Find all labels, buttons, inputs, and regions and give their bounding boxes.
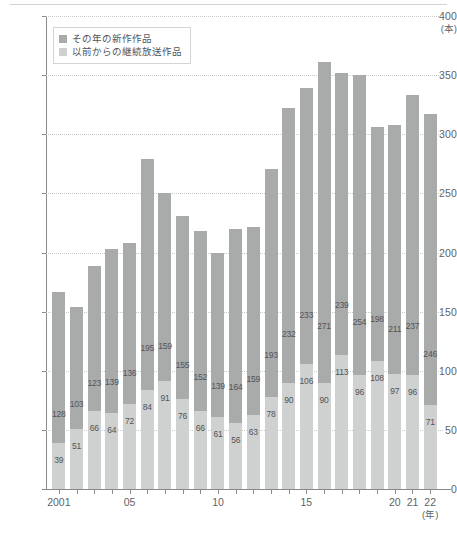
x-tickmark-2010 xyxy=(218,489,219,494)
bar-value-new-2019: 198 xyxy=(370,315,384,324)
bar-value-continuing-2010: 61 xyxy=(213,430,222,439)
bar-2016: 90271 xyxy=(318,62,331,489)
bar-segment-new-2017 xyxy=(335,73,348,356)
bar-value-continuing-2008: 76 xyxy=(178,412,187,421)
bar-value-new-2008: 155 xyxy=(176,361,190,370)
bar-value-continuing-2019: 108 xyxy=(370,374,384,383)
x-tickmark-2004 xyxy=(112,489,113,494)
bar-value-new-2015: 233 xyxy=(300,311,314,320)
bar-value-continuing-2013: 78 xyxy=(266,410,275,419)
bar-value-continuing-2018: 96 xyxy=(355,388,364,397)
bar-value-continuing-2012: 63 xyxy=(249,428,258,437)
x-tickmark-2015 xyxy=(306,489,307,494)
bar-segment-new-2012 xyxy=(247,227,260,415)
bar-2005: 72136 xyxy=(123,243,136,489)
bar-value-new-2012: 159 xyxy=(247,375,261,384)
bar-segment-new-2006 xyxy=(141,159,154,390)
bar-value-continuing-2009: 66 xyxy=(196,424,205,433)
legend-label-new-works: その年の新作作品 xyxy=(72,33,152,44)
bar-2020: 97211 xyxy=(388,125,401,489)
gridline-400 xyxy=(46,16,443,17)
bar-2013: 78193 xyxy=(265,169,278,489)
bar-2002: 51103 xyxy=(70,307,83,489)
bar-value-continuing-2015: 106 xyxy=(300,377,314,386)
bar-value-new-2003: 123 xyxy=(87,379,101,388)
bar-value-continuing-2002: 51 xyxy=(72,442,81,451)
bar-2015: 106233 xyxy=(300,88,313,489)
bar-2008: 76155 xyxy=(176,216,189,489)
bar-segment-new-2003 xyxy=(88,266,101,411)
x-tickmark-2007 xyxy=(165,489,166,494)
x-axis-unit: (年) xyxy=(422,510,438,520)
legend-item-continuing-works: 以前からの継続放送作品 xyxy=(59,45,182,58)
bar-segment-new-2022 xyxy=(424,114,437,405)
bar-value-new-2001: 128 xyxy=(52,410,66,419)
bar-value-continuing-2001: 39 xyxy=(54,456,63,465)
bar-value-continuing-2005: 72 xyxy=(125,417,134,426)
bar-segment-new-2002 xyxy=(70,307,83,429)
bar-segment-new-2019 xyxy=(371,127,384,361)
x-tickmark-2016 xyxy=(324,489,325,494)
bar-value-new-2005: 136 xyxy=(123,369,137,378)
bar-value-new-2007: 159 xyxy=(158,342,172,351)
bar-2006: 84195 xyxy=(141,159,154,489)
bar-value-continuing-2020: 97 xyxy=(390,387,399,396)
gridline-0 xyxy=(46,489,443,490)
bar-value-continuing-2011: 56 xyxy=(231,436,240,445)
x-tickmark-2003 xyxy=(94,489,95,494)
x-tickmark-2021 xyxy=(412,489,413,494)
bar-segment-new-2009 xyxy=(194,231,207,411)
bar-2018: 96254 xyxy=(353,75,366,489)
bar-value-new-2013: 193 xyxy=(264,351,278,360)
bar-value-new-2009: 152 xyxy=(193,373,207,382)
bar-segment-continuing-2010 xyxy=(211,417,224,489)
bar-segment-new-2001 xyxy=(52,292,65,443)
legend-swatch-new-works xyxy=(59,35,67,43)
bar-segment-continuing-2002 xyxy=(70,429,83,489)
bar-value-continuing-2003: 66 xyxy=(90,424,99,433)
bar-value-new-2022: 246 xyxy=(423,350,437,359)
x-tickmark-2008 xyxy=(183,489,184,494)
bar-value-new-2014: 232 xyxy=(282,330,296,339)
x-tickmark-2012 xyxy=(253,489,254,494)
bar-segment-new-2015 xyxy=(300,88,313,364)
bar-value-new-2021: 237 xyxy=(406,322,420,331)
bar-value-new-2020: 211 xyxy=(388,325,401,334)
x-tickmark-2006 xyxy=(147,489,148,494)
bar-segment-new-2005 xyxy=(123,243,136,404)
bar-value-continuing-2022: 71 xyxy=(426,418,435,427)
bar-value-new-2017: 239 xyxy=(335,301,349,310)
x-tickmark-2002 xyxy=(77,489,78,494)
x-tickmark-2014 xyxy=(289,489,290,494)
bar-segment-new-2018 xyxy=(353,75,366,375)
x-tick-label-2015: 15 xyxy=(301,497,313,508)
bar-value-continuing-2017: 113 xyxy=(335,368,348,377)
bar-2021: 96237 xyxy=(406,95,419,489)
bar-value-new-2006: 195 xyxy=(140,344,154,353)
legend-item-new-works: その年の新作作品 xyxy=(59,32,182,45)
bar-2019: 108198 xyxy=(371,127,384,489)
bar-2004: 64139 xyxy=(105,249,118,489)
bar-value-new-2018: 254 xyxy=(353,318,367,327)
bar-segment-new-2007 xyxy=(158,193,171,381)
x-tickmark-2019 xyxy=(377,489,378,494)
x-tickmark-2011 xyxy=(236,489,237,494)
bar-value-new-2004: 139 xyxy=(105,378,119,387)
plot-area: 3912851103661236413972136841959115976155… xyxy=(46,16,443,489)
bar-value-continuing-2006: 84 xyxy=(143,403,152,412)
bar-value-new-2011: 164 xyxy=(229,383,243,392)
legend-label-continuing-works: 以前からの継続放送作品 xyxy=(72,46,182,57)
bar-segment-new-2004 xyxy=(105,249,118,413)
bar-2010: 61139 xyxy=(211,253,224,490)
bar-segment-continuing-2011 xyxy=(229,423,242,489)
bar-2017: 113239 xyxy=(335,73,348,489)
bar-segment-new-2021 xyxy=(406,95,419,375)
x-tickmark-2013 xyxy=(271,489,272,494)
bar-segment-new-2013 xyxy=(265,169,278,397)
stacked-bar-chart: 050100150200250300350400(本) 391285110366… xyxy=(0,0,457,535)
bar-2012: 63159 xyxy=(247,227,260,490)
bar-segment-new-2020 xyxy=(388,125,401,375)
bar-value-new-2016: 271 xyxy=(317,322,331,331)
bar-value-continuing-2007: 91 xyxy=(160,394,169,403)
bar-2007: 91159 xyxy=(158,193,171,489)
